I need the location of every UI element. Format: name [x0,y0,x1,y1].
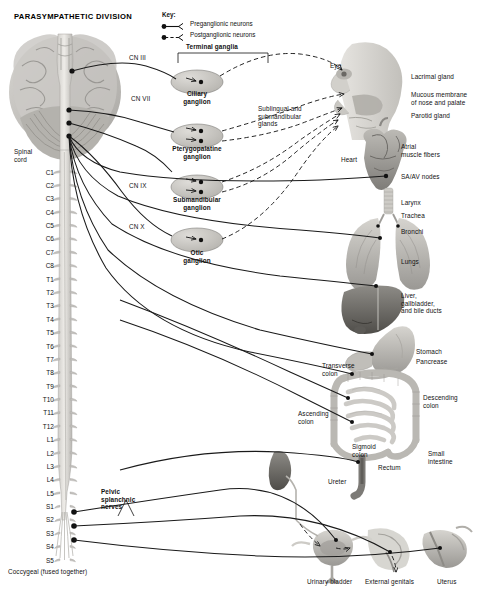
spinal-segment-s5: S5 [20,557,54,565]
external-genitals-label: External genitals [365,578,414,586]
terminal-ganglia-label: Terminal ganglia [186,43,238,51]
spinal-cord-label: Spinal cord [14,148,32,163]
spinal-segment-t10: T10 [20,396,54,404]
sigmoid-colon-label: Sigmoid colon [352,443,376,458]
pelvic-splanchnic-nerves-label: Pelvic splanchnic nerves [101,488,135,511]
lungs-label: Lungs [401,258,419,266]
coccygeal-label: Coccygeal (fused together) [8,568,87,576]
ciliary-ganglion-label: Ciliary ganglion [157,90,237,105]
spinal-segment-t9: T9 [20,383,54,391]
spinal-segment-s3: S3 [20,530,54,538]
liver-label: Liver, gallbladder, and bile ducts [401,292,442,315]
otic-ganglion-label: Otic ganglion [157,249,237,264]
spinal-segment-t5: T5 [20,329,54,337]
pelvic-organs-illustration [292,520,472,582]
rectum-label: Rectum [378,464,401,472]
spinal-segment-t8: T8 [20,369,54,377]
spinal-segment-c6: C6 [20,235,54,243]
cranial-nerve-iii-label: CN III [129,54,146,62]
spinal-segment-l3: L3 [20,463,54,471]
spinal-segment-t3: T3 [20,302,54,310]
spinal-segment-s1: S1 [20,503,54,511]
key-item-preganglionic-label: Preganglionic neurons [190,20,253,27]
spinal-segment-t2: T2 [20,289,54,297]
lacrimal-gland-label: Lacrimal gland [411,73,454,81]
spinal-segment-t11: T11 [20,409,54,417]
spinal-segment-t1: T1 [20,276,54,284]
stomach-label: Stomach [416,348,442,356]
spinal-segment-l4: L4 [20,476,54,484]
uterus-label: Uterus [437,578,456,586]
cranial-nerve-ix-label: CN IX [129,182,147,190]
liver-illustration [341,286,404,334]
key-item-postganglionic-label: Postganglionic neurons [190,31,255,38]
sa-av-nodes-label: SA/AV nodes [401,173,440,181]
head-illustration [331,42,402,140]
mucous-membrane-label: Mucous membrane of nose and palate [411,91,467,106]
ascending-colon-label: Ascending colon [298,410,329,425]
trachea-label: Trachea [401,212,425,220]
pterygopalatine-ganglion-label: Pterygopalatine ganglion [147,145,247,160]
spinal-segment-l5: L5 [20,490,54,498]
spinal-segment-s2: S2 [20,516,54,524]
parotid-gland-label: Parotid gland [411,112,450,120]
sublingual-submandibular-label: Sublingual and submandibular glands [258,105,302,128]
spinal-segment-l2: L2 [20,450,54,458]
pancreas-label: Pancrease [416,358,447,366]
descending-colon-label: Descending colon [423,394,458,409]
spinal-segment-c1: C1 [20,169,54,177]
spinal-segment-t6: T6 [20,343,54,351]
spinal-segment-l1: L1 [20,436,54,444]
key-heading: Key: [162,11,176,18]
submandibular-ganglion-label: Submandibular ganglion [147,196,247,211]
spinal-segment-c3: C3 [20,195,54,203]
heart-label: Heart [341,156,357,164]
spinal-segment-c7: C7 [20,249,54,257]
spinal-segment-t12: T12 [20,423,54,431]
postganglionic-line-icon [161,33,185,42]
spinal-segment-s4: S4 [20,543,54,551]
parasympathetic-division-figure: PARASYMPATHETIC DIVISION Key: Preganglio… [0,0,484,597]
brain-illustration [9,34,121,160]
spinal-segment-t4: T4 [20,316,54,324]
larynx-label: Larynx [401,199,421,207]
cranial-nerve-vii-label: CN VII [131,95,150,103]
preganglionic-line-icon [161,22,185,31]
transverse-colon-label: Transverse colon [322,362,355,377]
urinary-bladder-label: Urinary bladder [307,578,352,586]
spinal-segment-c8: C8 [20,262,54,270]
small-intestine-label: Small intestine [428,450,453,465]
atrial-muscle-label: Atrial muscle fibers [401,143,440,158]
spinal-segment-c5: C5 [20,222,54,230]
spinal-segment-c4: C4 [20,209,54,217]
spinal-segment-t7: T7 [20,356,54,364]
figure-title: PARASYMPATHETIC DIVISION [14,12,132,21]
spinal-segment-c2: C2 [20,182,54,190]
ureter-label: Ureter [328,478,346,486]
spinal-cord-illustration [53,150,77,562]
cranial-nerve-x-label: CN X [129,223,145,231]
kidney-illustration [269,451,296,520]
eye-label: Eye [330,62,341,70]
bronchi-label: Bronchi [401,228,423,236]
